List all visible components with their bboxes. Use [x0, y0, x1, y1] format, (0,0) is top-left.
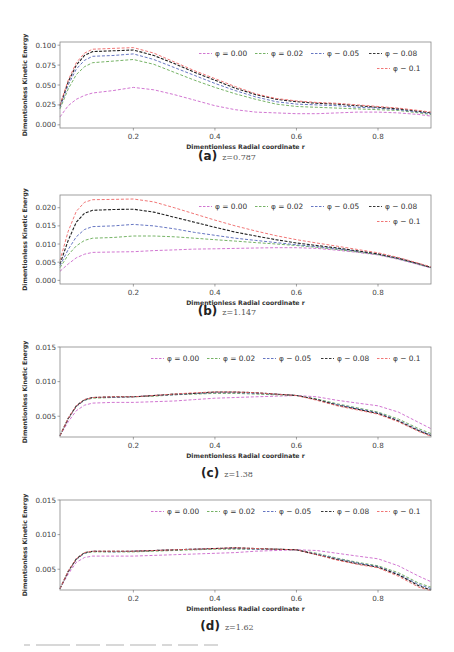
series-line [60, 549, 431, 589]
y-axis-label: Dimentionless Kinetic Energy [21, 494, 29, 597]
legend-label: φ − 0.05 [279, 507, 312, 516]
legend-label: φ − 0.1 [393, 507, 421, 516]
series-line [60, 550, 431, 589]
x-tick-label: 0.2 [128, 594, 139, 603]
caption-z-value: z=1.62 [225, 623, 254, 632]
series-line [60, 549, 431, 588]
y-tick-label: 0.010 [35, 530, 56, 539]
x-tick-label: 0.8 [372, 594, 384, 603]
legend-label: φ = 0.02 [223, 507, 255, 516]
y-tick-label: 0.015 [35, 496, 56, 505]
y-tick-label: 0.005 [35, 565, 56, 574]
chart-d-plot: 0.20.40.60.80.0050.0100.015Dimentionless… [0, 0, 454, 640]
caption-d: (d)z=1.62 [0, 615, 454, 634]
cut-off-caption-text [24, 644, 324, 647]
series-line [60, 548, 431, 591]
subplot-d: 0.20.40.60.80.0050.0100.015Dimentionless… [0, 0, 454, 640]
legend-label: φ − 0.08 [337, 507, 370, 516]
x-axis-label: Dimentionless Radial coordinate r [186, 605, 305, 612]
data-series-group [60, 548, 431, 591]
caption-letter: (d) [200, 619, 220, 633]
x-tick-label: 0.4 [209, 594, 221, 603]
legend-label: φ = 0.00 [167, 507, 200, 516]
legend: φ = 0.00φ = 0.02φ − 0.05φ − 0.08φ − 0.1 [151, 507, 421, 516]
series-line [60, 548, 431, 590]
x-tick-label: 0.6 [291, 594, 303, 603]
